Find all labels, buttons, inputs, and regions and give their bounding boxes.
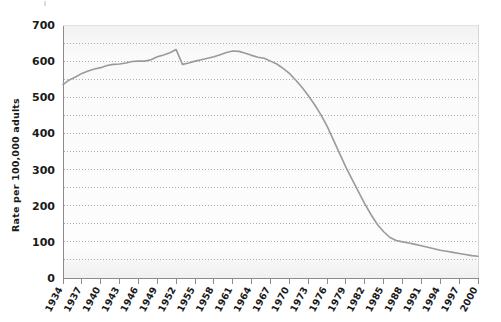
y-tick-label: 400 xyxy=(32,127,55,140)
y-tick-label: 500 xyxy=(32,91,55,104)
y-tick-label: 600 xyxy=(32,55,55,68)
line-chart: 7006005004003002001000 19341937194019431… xyxy=(0,0,501,322)
y-tick-label: 200 xyxy=(32,200,55,213)
y-tick-label: 0 xyxy=(47,272,55,285)
y-tick-label: 300 xyxy=(32,164,55,177)
y-axis-title: Rate per 100,000 adults xyxy=(10,98,21,232)
y-tick-label: 100 xyxy=(32,236,55,249)
y-tick-label: 700 xyxy=(32,19,55,32)
chart-container: 7006005004003002001000 19341937194019431… xyxy=(0,0,501,322)
